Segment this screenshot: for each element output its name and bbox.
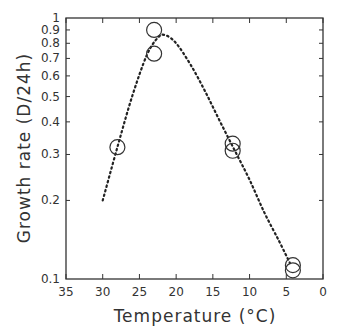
y-tick-label: 0.5 — [41, 90, 60, 104]
x-tick-label: 20 — [169, 285, 184, 299]
y-tick-label: 0.2 — [41, 193, 60, 207]
y-tick-label: 0.1 — [41, 272, 60, 286]
y-tick-label: 0.6 — [41, 69, 60, 83]
x-tick-label: 30 — [95, 285, 110, 299]
x-tick-label: 5 — [282, 285, 290, 299]
y-tick-label: 0.3 — [41, 147, 60, 161]
x-axis-title: Temperature (°C) — [113, 306, 277, 326]
x-tick-label: 0 — [319, 285, 327, 299]
y-tick-label: 0.8 — [41, 36, 60, 50]
y-tick-label: 0.9 — [41, 23, 60, 37]
x-tick-label: 25 — [132, 285, 147, 299]
y-tick-label: 0.7 — [41, 51, 60, 65]
x-tick-label: 10 — [242, 285, 257, 299]
data-points — [110, 22, 300, 277]
plot-frame — [66, 18, 323, 279]
data-point — [110, 140, 125, 155]
x-tick-label: 35 — [58, 285, 73, 299]
growth-rate-chart: 35302520151050 10.90.80.70.60.50.40.30.2… — [0, 0, 340, 336]
data-point — [147, 46, 162, 61]
data-point — [147, 22, 162, 37]
fitted-curve — [103, 35, 290, 264]
y-tick-label: 0.4 — [41, 115, 60, 129]
y-axis-title: Growth rate (D/24h) — [14, 53, 34, 243]
x-tick-label: 15 — [205, 285, 220, 299]
x-axis-ticks: 35302520151050 — [58, 18, 326, 299]
